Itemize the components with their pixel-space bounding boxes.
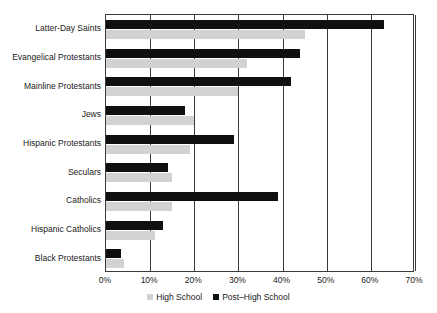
x-axis-tick-label: 70% [405, 275, 422, 286]
y-axis-tick-label: Mainline Protestants [0, 81, 101, 91]
bar-high-school [106, 87, 238, 96]
y-axis-tick-label: Black Protestants [0, 253, 101, 263]
bar-post-high-school [106, 192, 278, 201]
bar-post-high-school [106, 20, 384, 29]
y-axis-tick-label: Evangelical Protestants [0, 52, 101, 62]
legend-swatch-post-high-school [213, 294, 219, 300]
x-axis-labels: 0%10%20%30%40%50%60%70% [0, 275, 437, 289]
gridline [371, 15, 372, 271]
legend-item: High School [147, 292, 202, 302]
x-axis-tick-label: 60% [361, 275, 378, 286]
x-axis-tick-label: 30% [229, 275, 246, 286]
x-axis-tick-label: 50% [317, 275, 334, 286]
bar-post-high-school [106, 135, 234, 144]
y-axis-tick-label: Hispanic Catholics [0, 224, 101, 234]
x-axis-tick-label: 20% [185, 275, 202, 286]
bar-post-high-school [106, 249, 121, 258]
x-axis-tick-label: 10% [141, 275, 158, 286]
x-axis-tick-label: 40% [273, 275, 290, 286]
gridline [327, 15, 328, 271]
bar-high-school [106, 202, 172, 211]
bar-high-school [106, 231, 155, 240]
bar-post-high-school [106, 221, 163, 230]
bar-high-school [106, 259, 124, 268]
bar-high-school [106, 145, 190, 154]
y-axis-labels: Latter-Day SaintsEvangelical Protestants… [0, 14, 101, 272]
gridline [415, 15, 416, 271]
y-axis-tick-label: Hispanic Protestants [0, 138, 101, 148]
bar-high-school [106, 116, 194, 125]
legend-label: Post–High School [222, 292, 290, 302]
bar-post-high-school [106, 163, 168, 172]
legend-swatch-high-school [147, 294, 153, 300]
bar-chart: Latter-Day SaintsEvangelical Protestants… [0, 0, 437, 313]
bar-high-school [106, 173, 172, 182]
legend-label: High School [156, 292, 202, 302]
bar-high-school [106, 59, 247, 68]
legend-item: Post–High School [213, 292, 290, 302]
y-axis-tick-label: Latter-Day Saints [0, 23, 101, 33]
bar-high-school [106, 30, 305, 39]
chart-legend: High SchoolPost–High School [0, 292, 437, 302]
y-axis-tick-label: Seculars [0, 167, 101, 177]
x-axis-tick-label: 0% [99, 275, 111, 286]
y-axis-tick-label: Catholics [0, 195, 101, 205]
y-axis-tick-label: Jews [0, 109, 101, 119]
bar-post-high-school [106, 77, 291, 86]
bar-post-high-school [106, 106, 185, 115]
plot-area [105, 14, 414, 272]
bar-post-high-school [106, 49, 300, 58]
